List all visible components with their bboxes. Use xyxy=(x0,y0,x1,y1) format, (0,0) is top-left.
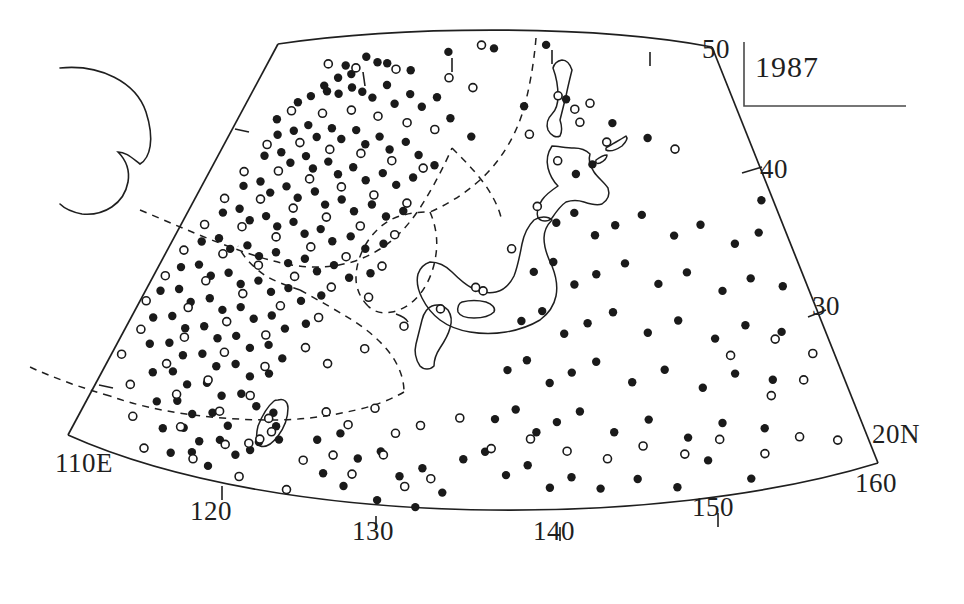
data-point-filled xyxy=(317,225,325,233)
data-point-filled xyxy=(382,212,390,220)
data-point-open xyxy=(761,450,769,458)
political-borders xyxy=(28,38,536,420)
data-point-open xyxy=(417,422,425,430)
data-point-filled xyxy=(704,456,712,464)
data-point-open xyxy=(202,277,210,285)
data-point-filled xyxy=(323,87,331,95)
data-point-filled xyxy=(188,410,196,418)
data-point-filled xyxy=(592,358,600,366)
data-point-open xyxy=(344,421,352,429)
data-point-filled xyxy=(294,194,302,202)
data-point-filled xyxy=(402,138,410,146)
data-point-open xyxy=(274,167,282,175)
data-point-filled xyxy=(747,274,755,282)
data-point-filled xyxy=(334,90,342,98)
data-point-open xyxy=(809,350,817,358)
data-point-filled xyxy=(246,216,254,224)
data-point-filled xyxy=(347,232,355,240)
year-annotation: 1987 xyxy=(755,52,819,82)
data-point-open xyxy=(469,84,477,92)
data-point-filled xyxy=(777,328,785,336)
data-point-filled xyxy=(549,258,557,266)
data-point-filled xyxy=(342,61,350,69)
tick-top-120 xyxy=(363,72,365,86)
data-point-filled xyxy=(718,287,726,295)
data-point-filled xyxy=(273,115,281,123)
data-point-open xyxy=(370,191,378,199)
data-point-filled xyxy=(354,454,362,462)
data-point-filled xyxy=(621,259,629,267)
data-point-filled xyxy=(348,83,356,91)
latitude-label-30: 30 xyxy=(812,293,840,320)
data-point-open xyxy=(403,199,411,207)
data-point-open xyxy=(604,455,612,463)
data-point-filled xyxy=(266,188,274,196)
data-point-filled xyxy=(254,276,262,284)
data-points-layer xyxy=(118,41,842,512)
data-point-filled xyxy=(165,339,173,347)
data-point-filled xyxy=(231,451,239,459)
data-point-open xyxy=(276,302,284,310)
data-point-open xyxy=(337,183,345,191)
data-point-filled xyxy=(246,344,254,352)
data-point-open xyxy=(296,139,304,147)
data-point-filled xyxy=(567,473,575,481)
data-point-filled xyxy=(383,81,391,89)
data-point-filled xyxy=(272,248,280,256)
data-point-filled xyxy=(390,100,398,108)
data-point-filled xyxy=(696,221,704,229)
data-point-filled xyxy=(304,121,312,129)
data-point-filled xyxy=(309,164,317,172)
data-point-open xyxy=(299,456,307,464)
data-point-open xyxy=(257,195,265,203)
data-point-open xyxy=(400,322,408,330)
data-point-filled xyxy=(373,496,381,504)
data-point-filled xyxy=(572,170,580,178)
data-point-filled xyxy=(779,282,787,290)
data-point-filled xyxy=(570,280,578,288)
data-point-open xyxy=(327,283,335,291)
data-point-open xyxy=(563,447,571,455)
data-point-filled xyxy=(379,169,387,177)
data-point-filled xyxy=(366,269,374,277)
map-frame xyxy=(68,30,878,510)
data-point-open xyxy=(306,175,314,183)
data-point-open xyxy=(571,105,579,113)
data-point-filled xyxy=(260,152,268,160)
data-point-filled xyxy=(334,170,342,178)
data-point-filled xyxy=(638,211,646,219)
latitude-label-50: 50 xyxy=(702,36,730,63)
data-point-filled xyxy=(674,316,682,324)
data-point-open xyxy=(419,164,427,172)
data-point-open xyxy=(681,450,689,458)
longitude-label-120: 120 xyxy=(190,498,232,525)
coastlines xyxy=(257,60,627,447)
data-point-open xyxy=(219,250,227,258)
data-point-open xyxy=(246,392,254,400)
data-point-filled xyxy=(596,484,604,492)
data-point-open xyxy=(163,360,171,368)
data-point-filled xyxy=(319,469,327,477)
data-point-open xyxy=(487,445,495,453)
data-point-open xyxy=(324,360,332,368)
data-point-filled xyxy=(300,230,308,238)
data-point-filled xyxy=(307,92,315,100)
data-point-filled xyxy=(517,317,525,325)
data-point-filled xyxy=(159,424,167,432)
data-point-open xyxy=(142,297,150,305)
data-point-filled xyxy=(237,303,245,311)
data-point-filled xyxy=(250,315,258,323)
data-point-filled xyxy=(670,231,678,239)
data-point-open xyxy=(388,157,396,165)
data-point-open xyxy=(245,439,253,447)
data-point-filled xyxy=(661,366,669,374)
data-point-open xyxy=(201,221,209,229)
data-point-filled xyxy=(433,93,441,101)
data-point-filled xyxy=(491,415,499,423)
data-point-filled xyxy=(345,274,353,282)
data-point-filled xyxy=(503,366,511,374)
data-point-filled xyxy=(328,124,336,132)
data-point-filled xyxy=(375,132,383,140)
data-point-open xyxy=(254,261,262,269)
data-point-open xyxy=(288,107,296,115)
